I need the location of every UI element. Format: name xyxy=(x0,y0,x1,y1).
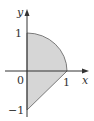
origin-label: 0 xyxy=(17,74,24,87)
y-tick-minus-one-label: −1 xyxy=(8,104,24,117)
x-axis-label: x xyxy=(82,74,89,87)
y-axis-arrow-icon xyxy=(25,9,30,16)
region-diagram: y x 0 1 1 −1 xyxy=(0,0,94,121)
y-tick-one-label: 1 xyxy=(15,27,22,40)
x-axis-arrow-icon xyxy=(82,69,89,74)
y-axis-label: y xyxy=(16,6,24,19)
x-tick-one-label: 1 xyxy=(63,76,70,89)
